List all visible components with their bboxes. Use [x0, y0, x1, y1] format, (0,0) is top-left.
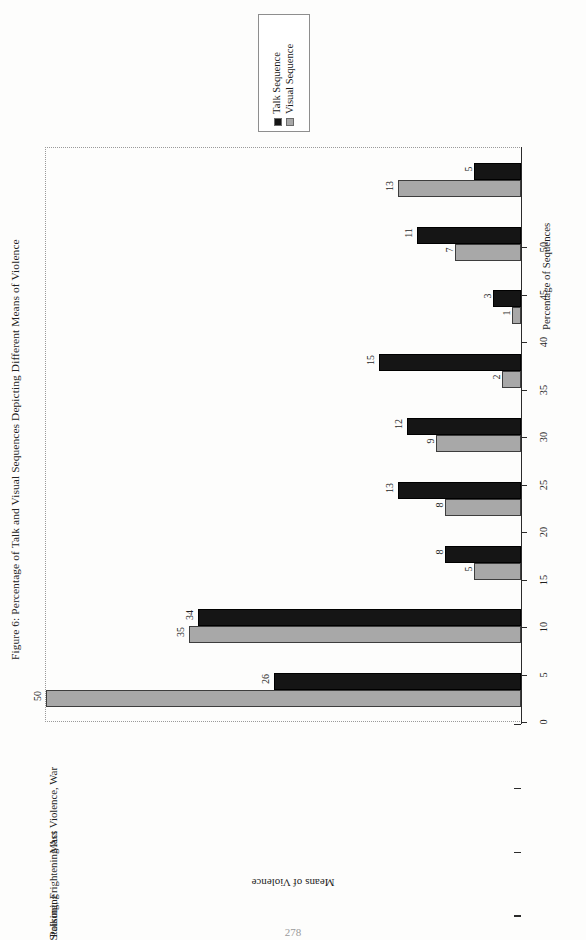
category-tick — [514, 915, 521, 916]
value-tick-label: 30 — [537, 424, 551, 450]
legend-item-visual-sequence: Visual Sequence — [285, 14, 296, 126]
bar-row: 13 — [46, 180, 521, 197]
value-tick — [521, 722, 527, 723]
value-tick-label: 15 — [537, 567, 551, 593]
chart-legend: Talk Sequence Visual Sequence — [258, 14, 310, 132]
bar-group: 152 — [46, 339, 521, 403]
value-tick-label: 20 — [537, 519, 551, 545]
bar-talk — [407, 418, 521, 435]
category-tick — [514, 788, 521, 789]
value-tick — [521, 437, 527, 438]
bar-value-label: 5 — [463, 566, 473, 571]
figure-title: Figure 6: Percentage of Talk and Visual … — [0, 0, 30, 760]
bar-value-label: 15 — [366, 355, 376, 365]
bar-group: 85 — [46, 531, 521, 595]
bar-value-label: 8 — [435, 502, 445, 507]
value-tick-label: 35 — [537, 377, 551, 403]
category-tick — [514, 724, 521, 725]
bar-talk — [198, 609, 521, 626]
bar-visual — [398, 180, 522, 197]
category-tick — [514, 852, 521, 853]
bars-layer: 513117311521291388534352650 — [46, 148, 521, 722]
bar-visual — [502, 371, 521, 388]
bar-row: 8 — [46, 546, 521, 563]
value-tick — [521, 675, 527, 676]
bar-talk — [445, 546, 521, 563]
bar-group: 2650 — [46, 658, 521, 722]
bar-value-label: 13 — [385, 181, 395, 191]
value-tick-label: 5 — [537, 662, 551, 688]
bar-row: 13 — [46, 482, 521, 499]
bar-talk — [398, 482, 522, 499]
category-axis-title: Means of Violence — [193, 873, 393, 889]
bar-group: 117 — [46, 212, 521, 276]
value-tick-label: 40 — [537, 329, 551, 355]
value-tick — [521, 580, 527, 581]
bar-talk — [474, 163, 522, 180]
bar-row: 50 — [46, 690, 521, 707]
bar-visual — [46, 690, 521, 707]
bar-group: 129 — [46, 403, 521, 467]
bar-visual — [436, 435, 522, 452]
value-tick — [521, 247, 527, 248]
bar-value-label: 13 — [385, 483, 395, 493]
bar-row: 5 — [46, 163, 521, 180]
bar-row: 35 — [46, 626, 521, 643]
bar-row: 5 — [46, 563, 521, 580]
bar-group: 513 — [46, 148, 521, 212]
bar-value-label: 11 — [404, 228, 414, 238]
bar-row: 11 — [46, 227, 521, 244]
value-tick — [521, 390, 527, 391]
bar-talk — [379, 354, 522, 371]
bar-visual — [455, 244, 522, 261]
bar-talk — [274, 673, 521, 690]
bar-row: 34 — [46, 609, 521, 626]
bar-value-label: 2 — [492, 375, 502, 380]
bar-row: 3 — [46, 290, 521, 307]
bar-value-label: 8 — [435, 549, 445, 554]
value-tick — [521, 295, 527, 296]
bar-visual — [474, 563, 522, 580]
bar-visual — [512, 307, 522, 324]
bar-row: 7 — [46, 244, 521, 261]
value-tick-label: 25 — [537, 472, 551, 498]
category-axis-labels: Mass Violence, WarStalking, Frightening … — [46, 724, 521, 874]
bar-value-label: 9 — [425, 438, 435, 443]
bar-row: 26 — [46, 673, 521, 690]
value-tick — [521, 532, 527, 533]
legend-items: Talk Sequence Visual Sequence — [258, 14, 310, 132]
bar-talk — [493, 290, 522, 307]
value-tick — [521, 485, 527, 486]
bar-value-label: 12 — [394, 419, 404, 429]
bar-value-label: 1 — [501, 311, 511, 316]
value-tick — [521, 342, 527, 343]
bar-row: 1 — [46, 307, 521, 324]
bar-value-label: 5 — [463, 166, 473, 171]
bar-value-label: 26 — [261, 674, 271, 684]
bar-group: 138 — [46, 467, 521, 531]
legend-swatch-talk-icon — [274, 118, 282, 126]
bar-value-label: 3 — [482, 294, 492, 299]
bar-visual — [189, 626, 522, 643]
value-tick — [521, 627, 527, 628]
bar-talk — [417, 227, 522, 244]
legend-label-visual: Visual Sequence — [285, 44, 296, 114]
bar-row: 12 — [46, 418, 521, 435]
bar-group: 31 — [46, 276, 521, 340]
bar-row: 2 — [46, 371, 521, 388]
bar-value-label: 35 — [176, 627, 186, 637]
bar-value-label: 34 — [185, 610, 195, 620]
legend-label-talk: Talk Sequence — [272, 52, 283, 114]
bar-group: 3435 — [46, 594, 521, 658]
page-number: 278 — [0, 926, 586, 938]
value-tick-label: 10 — [537, 614, 551, 640]
legend-swatch-visual-icon — [286, 118, 294, 126]
value-axis-title: Percentage of Sequences — [540, 130, 556, 330]
bar-value-label: 7 — [444, 247, 454, 252]
value-tick-label: 0 — [537, 709, 551, 735]
bar-visual — [445, 499, 521, 516]
bar-row: 8 — [46, 499, 521, 516]
bar-row: 9 — [46, 435, 521, 452]
scanned-page: Figure 6: Percentage of Talk and Visual … — [0, 0, 586, 940]
bar-row: 15 — [46, 354, 521, 371]
